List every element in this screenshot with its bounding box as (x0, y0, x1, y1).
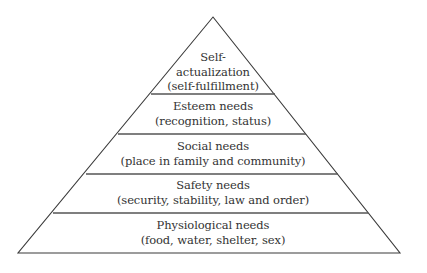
pyramid-diagram: Self- actualization (self-fulfillment) E… (0, 0, 427, 273)
level-subtitle: (place in family and community) (63, 154, 363, 169)
level-subtitle: (self-fulfillment) (63, 79, 363, 94)
level-social: Social needs (place in family and commun… (63, 139, 363, 168)
level-self-actualization: Self- actualization (self-fulfillment) (63, 50, 363, 94)
level-title: Social needs (63, 139, 363, 154)
level-title: Self- (63, 50, 363, 65)
level-subtitle: (security, stability, law and order) (63, 193, 363, 208)
level-title-cont: actualization (63, 65, 363, 80)
level-subtitle: (recognition, status) (63, 114, 363, 129)
level-title: Physiological needs (63, 218, 363, 233)
level-safety: Safety needs (security, stability, law a… (63, 178, 363, 207)
level-subtitle: (food, water, shelter, sex) (63, 233, 363, 248)
level-title: Safety needs (63, 178, 363, 193)
level-esteem: Esteem needs (recognition, status) (63, 99, 363, 128)
level-physiological: Physiological needs (food, water, shelte… (63, 218, 363, 247)
level-title: Esteem needs (63, 99, 363, 114)
